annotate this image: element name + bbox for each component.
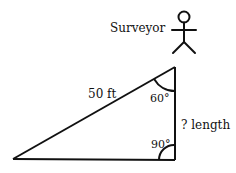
surveyor-head [179,12,190,23]
vertical-side-label: ? length [181,118,230,132]
bottom-angle-label: 90° [151,138,171,151]
hypotenuse-label: 50 ft [88,87,117,101]
surveyor-right-leg [184,42,195,53]
surveyor-figure-icon [172,12,196,54]
top-angle-label: 60° [150,92,170,105]
angle-arc-60 [154,79,175,91]
triangle-diagram: Surveyor 50 ft 60° ? length 90° [0,0,236,173]
surveyor-left-leg [173,42,184,53]
surveyor-label: Surveyor [110,21,166,35]
base-side [13,159,175,160]
